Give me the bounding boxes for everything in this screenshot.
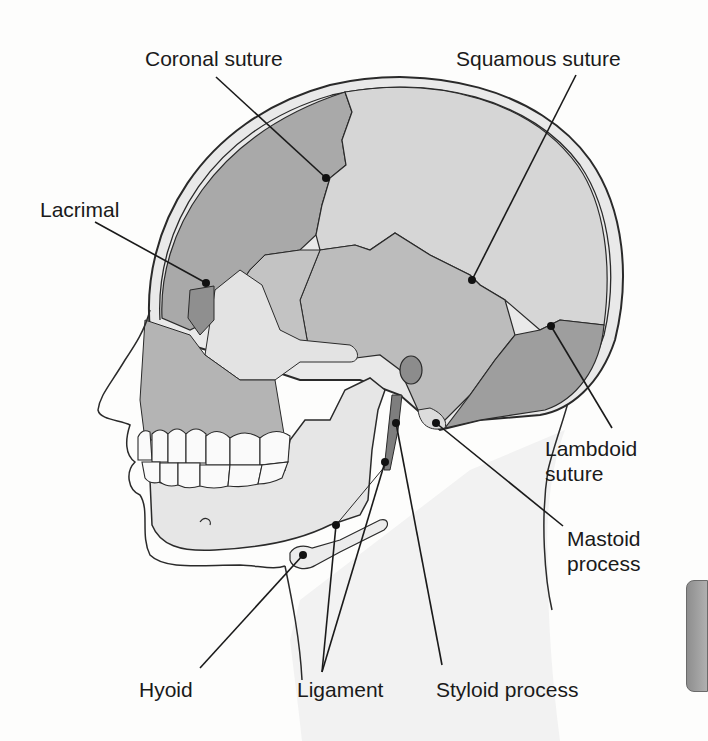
label-coronal-suture: Coronal suture bbox=[145, 46, 283, 71]
label-lambdoid-suture: Lambdoid suture bbox=[545, 436, 637, 486]
label-squamous-suture: Squamous suture bbox=[456, 46, 621, 71]
label-mastoid-process-line1: Mastoid bbox=[567, 526, 641, 551]
label-hyoid: Hyoid bbox=[139, 677, 193, 702]
label-lambdoid-suture-line1: Lambdoid bbox=[545, 436, 637, 461]
label-mastoid-process-line2: process bbox=[567, 551, 641, 576]
label-lambdoid-suture-line2: suture bbox=[545, 461, 637, 486]
external-acoustic-meatus bbox=[400, 356, 422, 384]
label-lacrimal: Lacrimal bbox=[40, 197, 119, 222]
teeth bbox=[138, 429, 290, 488]
label-mastoid-process: Mastoid process bbox=[567, 526, 641, 576]
leader-hyoid bbox=[200, 555, 303, 668]
label-ligament: Ligament bbox=[297, 677, 383, 702]
label-styloid-process: Styloid process bbox=[436, 677, 578, 702]
page-side-tab bbox=[686, 580, 708, 692]
